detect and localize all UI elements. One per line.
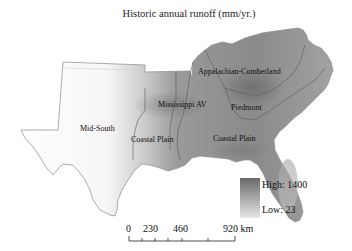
legend-low: Low: 23 [262, 204, 296, 215]
region-label-midsouth: Mid-South [80, 124, 115, 133]
region-label-mississippi: Mississippi AV [158, 100, 207, 109]
scale-tick-0: 0 [126, 223, 131, 234]
runoff-map [0, 0, 352, 251]
legend-high: High: 1400 [262, 179, 307, 190]
scale-bar [129, 236, 235, 241]
scale-tick-460: 460 [173, 223, 188, 234]
legend-gradient [240, 178, 260, 218]
region-label-piedmont: Piedmont [231, 103, 262, 112]
scale-tick-920: 920 km [223, 223, 253, 234]
region-label-coastal-east: Coastal Plain [213, 134, 255, 143]
scale-tick-230: 230 [143, 223, 158, 234]
region-label-coastal-west: Coastal Plain [131, 135, 173, 144]
region-label-appalachian: Appalachian-Cumberland [198, 67, 281, 76]
